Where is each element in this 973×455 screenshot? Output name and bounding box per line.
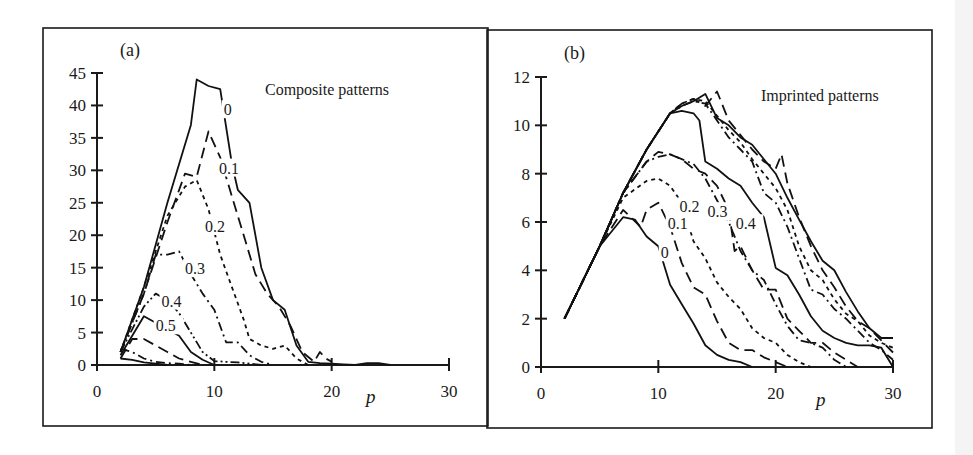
curve-label: 0 [661, 244, 669, 261]
curve-label: 0.1 [219, 160, 239, 177]
x-tick-label: 0 [537, 384, 546, 403]
curve-label: 0.5 [156, 317, 176, 334]
y-tick-label: 0 [78, 356, 87, 375]
series-line-0-9 [565, 92, 894, 353]
y-tick-label: 6 [522, 213, 531, 232]
y-tick-label: 10 [513, 116, 530, 135]
series-line-0-7 [121, 349, 191, 365]
panel-b-x-axis-label: p [814, 389, 826, 410]
panel-b-imprinted-patterns: (b) Imprinted patterns 0246810120102030 … [487, 30, 932, 428]
series-line-0 [565, 217, 753, 367]
panel-b-tag: (b) [564, 43, 585, 64]
series-line-0-4 [121, 294, 262, 365]
panel-b-curve-labels: 00.10.20.30.4 [659, 197, 764, 261]
x-tick-label: 10 [650, 384, 667, 403]
y-tick-label: 40 [69, 96, 86, 115]
y-tick-label: 25 [69, 194, 86, 213]
page-margin-strip [955, 0, 973, 455]
y-tick-label: 10 [69, 291, 86, 310]
panel-a-tag: (a) [120, 40, 140, 61]
series-line-0-3 [565, 154, 847, 367]
y-tick-label: 30 [69, 161, 86, 180]
curve-label: 0.1 [668, 215, 688, 232]
curve-label: 0.4 [162, 293, 182, 310]
panel-b-series [565, 92, 894, 368]
curve-label: 0.2 [205, 218, 225, 235]
series-line-0-4 [565, 152, 858, 367]
panel-a-title: Composite patterns [265, 81, 389, 99]
curve-label: 0.2 [679, 198, 699, 215]
y-tick-label: 5 [78, 324, 87, 343]
x-tick-label: 30 [441, 382, 458, 401]
panel-a-curve-labels: 00.10.20.30.40.5 [154, 100, 247, 334]
y-tick-label: 12 [513, 68, 530, 87]
x-tick-label: 30 [885, 384, 902, 403]
curve-label: 0.3 [708, 203, 728, 220]
x-tick-label: 20 [767, 384, 784, 403]
series-line-0-6 [565, 101, 894, 360]
panel-b-title: Imprinted patterns [761, 87, 879, 105]
x-tick-label: 10 [206, 382, 223, 401]
y-tick-label: 0 [522, 358, 531, 377]
series-line-0-5 [565, 111, 894, 367]
curve-label: 0.3 [185, 260, 205, 277]
curve-label: 0.4 [736, 215, 756, 232]
y-tick-label: 45 [69, 64, 86, 83]
panel-a-x-axis-label: p [364, 386, 376, 407]
y-tick-label: 20 [69, 226, 86, 245]
y-tick-label: 8 [522, 165, 531, 184]
panel-a-composite-patterns: (a) Composite patterns 05101520253035404… [43, 28, 488, 426]
panel-b-axes: 0246810120102030 [513, 68, 902, 403]
y-tick-label: 15 [69, 259, 86, 278]
curve-label: 0 [224, 101, 232, 118]
y-tick-label: 35 [69, 129, 86, 148]
y-tick-label: 2 [522, 310, 531, 329]
x-tick-label: 0 [93, 382, 102, 401]
y-tick-label: 4 [522, 261, 531, 280]
x-tick-label: 20 [323, 382, 340, 401]
figure: (a) Composite patterns 05101520253035404… [0, 0, 973, 455]
